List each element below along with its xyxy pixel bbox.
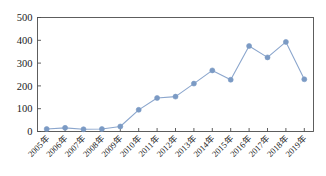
data-point: [283, 39, 288, 44]
data-point: [44, 126, 49, 131]
data-point: [136, 107, 141, 112]
data-point: [173, 94, 178, 99]
data-point: [228, 77, 233, 82]
data-point: [247, 44, 252, 49]
data-point: [81, 127, 86, 132]
data-point: [191, 81, 196, 86]
y-tick-label: 400: [17, 35, 33, 46]
y-tick-label: 100: [17, 103, 33, 114]
y-tick-label: 300: [17, 58, 33, 69]
line-chart: 0100200300400500 2005年2006年2007年2008年200…: [0, 0, 326, 176]
data-point: [155, 95, 160, 100]
data-point: [99, 126, 104, 131]
y-tick-label: 0: [27, 126, 32, 137]
data-point: [63, 125, 68, 130]
data-point: [118, 124, 123, 129]
y-tick-label: 200: [17, 81, 33, 92]
data-point: [302, 77, 307, 82]
y-tick-label: 500: [17, 12, 33, 23]
chart-canvas: 0100200300400500 2005年2006年2007年2008年200…: [0, 0, 326, 176]
data-point: [265, 55, 270, 60]
data-point: [210, 68, 215, 73]
